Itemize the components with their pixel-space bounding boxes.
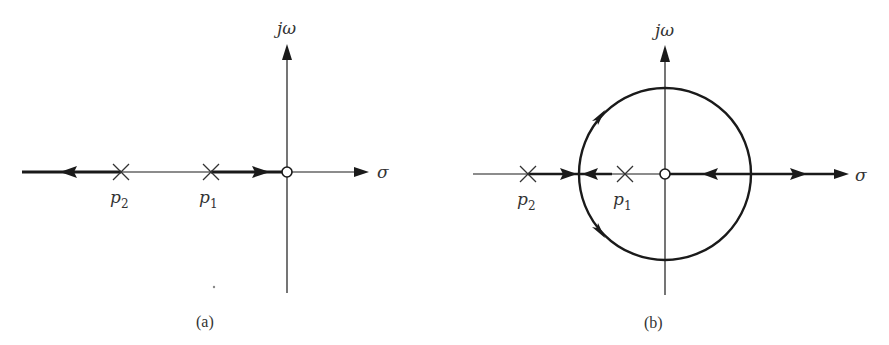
pole-p1-label: p1 [613, 189, 632, 213]
sigma-label: σ [377, 162, 389, 182]
caption-b: (b) [644, 314, 663, 332]
caption-a: (a) [196, 313, 214, 331]
imaginary-axis-arrow-icon [282, 44, 292, 60]
zero-origin-icon [282, 167, 292, 177]
real-axis-arrow-icon [354, 167, 369, 177]
pole-p2-label: p2 [110, 187, 129, 211]
sigma-label: σ [855, 165, 867, 185]
imaginary-axis-arrow-icon [660, 45, 670, 62]
pole-p1-label: p1 [199, 187, 218, 211]
jomega-label: jω [273, 18, 296, 38]
zero-origin-icon [660, 169, 670, 179]
pole-p2-label: p2 [517, 189, 536, 213]
circle-arrow-upper-icon [592, 110, 605, 125]
print-speck [213, 286, 215, 288]
panel-b: σ jω p2 p1 (b) [473, 20, 867, 332]
panel-a: σ jω p2 p1 (a) [22, 18, 389, 331]
real-axis-arrow-icon [834, 169, 849, 179]
root-locus-figure: σ jω p2 p1 (a) σ jω [0, 0, 889, 345]
jomega-label: jω [651, 20, 674, 40]
circle-arrow-lower-icon [592, 223, 605, 238]
